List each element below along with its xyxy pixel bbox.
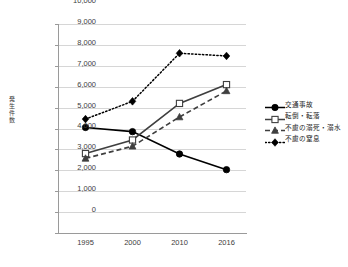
x-tick-label: 2016 [207, 238, 247, 247]
legend-marker-filled-circle-icon [265, 99, 285, 110]
y-tick-label: 5,000 [52, 101, 96, 110]
y-axis-title-char: 数 [6, 117, 18, 124]
data-point-filled-diamond [272, 138, 279, 146]
y-tick-label: 4,000 [52, 121, 96, 130]
legend-item-1[interactable]: 転倒・転落 [265, 111, 347, 123]
legend-label: 転倒・転落 [285, 112, 320, 120]
legend-marker-filled-diamond-icon [265, 134, 285, 145]
legend-label: 不慮の窒息 [285, 135, 320, 143]
y-axis-title-char: 生 [6, 103, 18, 110]
x-tick-label: 2000 [113, 238, 153, 247]
y-axis-title-char: 件 [6, 110, 18, 117]
y-tick-label: 0 [52, 205, 96, 214]
y-axis-title-char: 発 [6, 96, 18, 103]
y-tick-label: 8,000 [52, 38, 96, 47]
line-chart: 発生件数 交通事故転倒・転落不慮の溺死・溺水不慮の窒息 10,0009,0008… [0, 0, 348, 267]
chart-legend: 交通事故転倒・転落不慮の溺死・溺水不慮の窒息 [265, 99, 347, 145]
legend-label: 不慮の溺死・溺水 [285, 124, 341, 132]
x-tick-label: 2010 [160, 238, 200, 247]
legend-item-0[interactable]: 交通事故 [265, 99, 347, 111]
y-tick-label: 1,000 [52, 184, 96, 193]
y-tick-label: 3,000 [52, 142, 96, 151]
y-tick-label: 2,000 [52, 163, 96, 172]
legend-label: 交通事故 [285, 101, 313, 109]
y-tick-label: 9,000 [52, 17, 96, 26]
y-axis-title: 発生件数 [6, 96, 18, 124]
legend-marker-open-square-icon [265, 111, 285, 122]
legend-item-2[interactable]: 不慮の溺死・溺水 [265, 122, 347, 134]
legend-marker-filled-triangle-icon [265, 122, 285, 133]
x-axis-line [58, 233, 247, 234]
x-tick-label: 1995 [66, 238, 106, 247]
y-tick-label: 6,000 [52, 80, 96, 89]
y-tick-label: 7,000 [52, 59, 96, 68]
legend-item-3[interactable]: 不慮の窒息 [265, 134, 347, 146]
y-tick-label: 10,000 [52, 0, 96, 5]
